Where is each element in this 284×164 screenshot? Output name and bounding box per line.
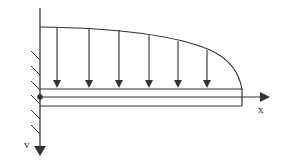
x-axis bbox=[40, 92, 270, 102]
x-axis-label: x bbox=[258, 104, 264, 115]
wall-support bbox=[31, 8, 46, 156]
v-axis-arrowhead-icon bbox=[34, 146, 46, 156]
load-arrows bbox=[53, 27, 211, 88]
load-distribution-curve bbox=[40, 27, 242, 90]
v-axis-label: v bbox=[24, 139, 30, 150]
beam-diagram: x v bbox=[0, 0, 284, 164]
origin-dot bbox=[37, 94, 43, 100]
x-axis-arrowhead-icon bbox=[260, 92, 270, 102]
